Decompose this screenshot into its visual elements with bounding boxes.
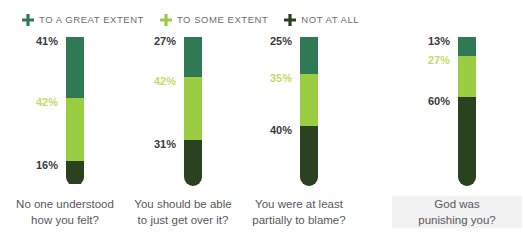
stacked-bar[interactable] — [184, 37, 202, 186]
segment-value-label: 31% — [154, 139, 176, 150]
bar-segment-great-extent[interactable] — [458, 37, 476, 56]
segment-value-label: 41% — [36, 36, 58, 47]
segment-value-label: 42% — [154, 76, 176, 87]
bar-segment-some-extent[interactable] — [184, 77, 202, 140]
category-label-no-one-understood[interactable]: No one understood how you felt? — [0, 196, 130, 228]
segment-value-label: 27% — [428, 55, 450, 66]
segment-value-label: 13% — [428, 36, 450, 47]
legend-label: TO SOME EXTENT — [177, 14, 268, 26]
stacked-bar[interactable] — [458, 37, 476, 186]
stacked-bar[interactable] — [300, 37, 318, 186]
category-label-line: partially to blame? — [234, 212, 364, 228]
category-label-line: God was — [392, 196, 522, 212]
plot-area: 41% 42% 16% 27% 42% 31% 25% 35% 40% — [0, 33, 523, 190]
segment-value-label: 35% — [270, 73, 292, 84]
bar-column: 41% 42% 16% — [0, 33, 130, 190]
legend-item-to-some-extent[interactable]: TO SOME EXTENT — [160, 14, 268, 26]
bar-segment-some-extent[interactable] — [66, 98, 84, 161]
plus-icon — [160, 14, 172, 26]
bar-segment-some-extent[interactable] — [458, 56, 476, 96]
legend-label: NOT AT ALL — [301, 14, 359, 26]
category-label-god-was-punishing-you[interactable]: God was punishing you? — [392, 196, 522, 228]
chart-container: TO A GREAT EXTENT TO SOME EXTENT NOT AT … — [0, 0, 523, 245]
segment-value-label: 60% — [428, 96, 450, 107]
segment-value-label: 25% — [270, 36, 292, 47]
bar-column: 25% 35% 40% — [234, 33, 364, 190]
bar-segment-not-at-all[interactable] — [300, 126, 318, 186]
category-label-line: You should be able — [118, 196, 248, 212]
legend-item-not-at-all[interactable]: NOT AT ALL — [284, 14, 359, 26]
stacked-bar[interactable] — [66, 37, 84, 186]
bar-column: 13% 27% 60% — [392, 33, 522, 190]
bar-segment-not-at-all[interactable] — [458, 97, 476, 186]
category-label-line: You were at least — [234, 196, 364, 212]
category-label-line: how you felt? — [0, 212, 130, 228]
category-axis: No one understood how you felt? You shou… — [0, 196, 523, 242]
category-label-should-get-over-it[interactable]: You should be able to just get over it? — [118, 196, 248, 228]
segment-value-label: 42% — [36, 97, 58, 108]
bar-segment-great-extent[interactable] — [184, 37, 202, 77]
category-label-line: No one understood — [0, 196, 130, 212]
bar-segment-great-extent[interactable] — [300, 37, 318, 74]
segment-value-label: 16% — [36, 160, 58, 171]
legend-item-to-a-great-extent[interactable]: TO A GREAT EXTENT — [22, 14, 144, 26]
plus-icon — [284, 14, 296, 26]
category-label-line: punishing you? — [392, 212, 522, 228]
segment-value-label: 40% — [270, 125, 292, 136]
plus-icon — [22, 14, 34, 26]
bar-segment-not-at-all[interactable] — [184, 140, 202, 186]
legend-label: TO A GREAT EXTENT — [39, 14, 144, 26]
bar-segment-great-extent[interactable] — [66, 37, 84, 98]
category-label-partially-to-blame[interactable]: You were at least partially to blame? — [234, 196, 364, 228]
category-label-line: to just get over it? — [118, 212, 248, 228]
bar-segment-not-at-all[interactable] — [66, 161, 84, 185]
segment-value-label: 27% — [154, 36, 176, 47]
bar-column: 27% 42% 31% — [118, 33, 248, 190]
chart-legend: TO A GREAT EXTENT TO SOME EXTENT NOT AT … — [22, 12, 375, 28]
bar-segment-some-extent[interactable] — [300, 74, 318, 126]
